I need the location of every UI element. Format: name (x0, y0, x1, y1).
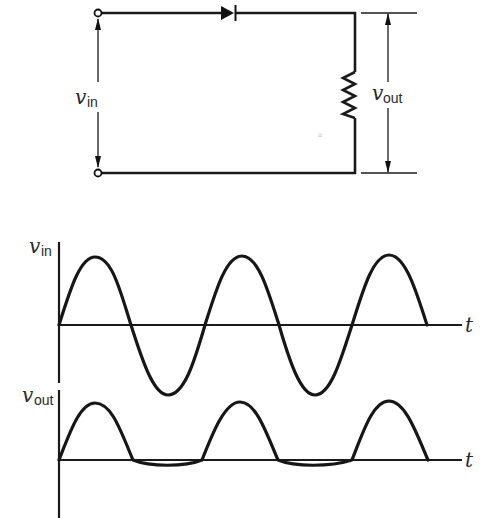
vin-label-sub: in (87, 94, 98, 110)
vin-graph-ylabel-symbol: v (29, 234, 41, 258)
resistor-icon (343, 72, 355, 118)
vin-dimension-arrow (95, 18, 101, 168)
input-terminal-top (95, 10, 102, 17)
circuit-schematic: v in v out a (75, 5, 417, 177)
vin-graph-ylabel-sub: in (41, 243, 52, 259)
vout-graph-xlabel: t (465, 448, 474, 472)
vin-graph: v in t (29, 234, 474, 395)
diode-icon (221, 5, 236, 21)
vout-graph: v out t (22, 383, 474, 518)
vin-graph-xlabel: t (465, 313, 474, 337)
input-terminal-bottom (95, 170, 102, 177)
vout-graph-ylabel-symbol: v (22, 383, 34, 407)
diagram-canvas: v in v out a v in t v out t (0, 0, 500, 518)
vout-waveform (59, 401, 428, 465)
vin-label-symbol: v (75, 85, 87, 109)
stray-mark: a (318, 131, 322, 139)
vout-graph-ylabel-sub: out (34, 392, 54, 408)
vout-label-sub: out (383, 90, 403, 106)
